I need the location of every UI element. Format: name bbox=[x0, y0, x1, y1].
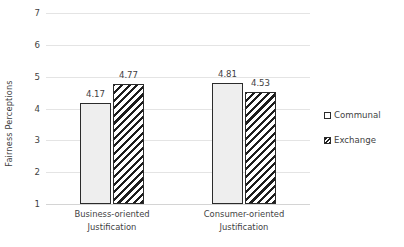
y-tick-label-5: 5 bbox=[10, 72, 40, 81]
category-label-1: Consumer-orientedJustification bbox=[178, 208, 310, 234]
bar-exchange-0 bbox=[113, 84, 144, 204]
legend-item-exchange[interactable]: Exchange bbox=[324, 135, 404, 146]
legend-swatch-communal-icon bbox=[324, 112, 331, 119]
gridline-7 bbox=[46, 13, 310, 14]
plot-area: 4.174.814.774.53 bbox=[46, 13, 310, 204]
y-tick-label-7: 7 bbox=[10, 9, 40, 18]
category-label-1-line-0: Consumer-oriented bbox=[178, 208, 310, 221]
chart-legend: CommunalExchange bbox=[324, 110, 404, 160]
y-axis-tick-labels: 1234567 bbox=[6, 13, 40, 204]
y-tick-label-3: 3 bbox=[10, 136, 40, 145]
y-tick-label-2: 2 bbox=[10, 168, 40, 177]
gridline-1 bbox=[46, 204, 310, 205]
legend-label-communal: Communal bbox=[334, 111, 381, 120]
legend-label-exchange: Exchange bbox=[334, 136, 376, 145]
gridline-5 bbox=[46, 77, 310, 78]
y-tick-label-6: 6 bbox=[10, 41, 40, 50]
category-label-0-line-1: Justification bbox=[46, 221, 178, 234]
bar-value-exchange-0: 4.77 bbox=[105, 71, 152, 80]
bar-value-communal-1: 4.81 bbox=[204, 70, 251, 79]
bar-chart: Fairness Perceptions 1234567 4.174.814.7… bbox=[0, 0, 404, 247]
bar-value-exchange-1: 4.53 bbox=[237, 79, 284, 88]
x-axis-category-labels: Business-orientedJustificationConsumer-o… bbox=[46, 208, 310, 244]
gridline-6 bbox=[46, 45, 310, 46]
category-label-0-line-0: Business-oriented bbox=[46, 208, 178, 221]
bar-communal-1 bbox=[212, 83, 243, 204]
bar-exchange-1 bbox=[245, 92, 276, 204]
bar-value-communal-0: 4.17 bbox=[72, 90, 119, 99]
bar-communal-0 bbox=[80, 103, 111, 204]
legend-item-communal[interactable]: Communal bbox=[324, 110, 404, 121]
y-tick-label-1: 1 bbox=[10, 200, 40, 209]
category-label-0: Business-orientedJustification bbox=[46, 208, 178, 234]
legend-swatch-exchange-icon bbox=[324, 137, 331, 144]
y-tick-label-4: 4 bbox=[10, 104, 40, 113]
category-label-1-line-1: Justification bbox=[178, 221, 310, 234]
